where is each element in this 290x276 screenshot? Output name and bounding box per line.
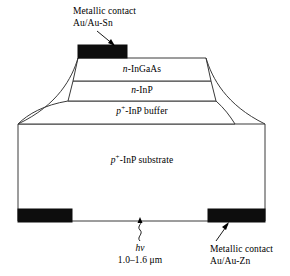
inp-layer-label: n-InP	[131, 85, 153, 97]
photon-wavelength-label: 1.0–1.6 μm	[118, 255, 162, 267]
top-contact-label-line2: Au/Au-Sn	[73, 18, 136, 30]
buffer-layer-label: p+-InP buffer	[116, 106, 167, 118]
bottom-contact-leader-arrow	[216, 222, 229, 241]
photodiode-cross-section-figure: Metallic contact Au/Au-Sn n-InGaAs n-InP…	[0, 0, 290, 276]
photon-energy-label: hν	[135, 243, 144, 255]
bottom-contact-label: Metallic contact Au/Au-Zn	[210, 244, 273, 267]
ingaas-material-text: -InGaAs	[128, 64, 161, 74]
top-contact-leader-arrow	[97, 31, 115, 46]
bottom-contact-label-line2: Au/Au-Zn	[210, 256, 273, 268]
top-contact-label-line1: Metallic contact	[73, 6, 136, 18]
bottom-contact-label-line1: Metallic contact	[210, 244, 273, 256]
ingaas-layer-label: n-InGaAs	[123, 64, 161, 76]
buffer-material-text: -InP buffer	[125, 106, 168, 116]
top-contact-label: Metallic contact Au/Au-Sn	[73, 6, 136, 29]
inp-material-text: -InP	[136, 85, 153, 95]
bottom-right-metallic-contact	[208, 209, 265, 222]
photon-nu-symbol: ν	[140, 243, 144, 253]
substrate-material-text: -InP substrate	[120, 155, 174, 165]
bottom-left-metallic-contact	[18, 209, 72, 222]
top-metallic-contact	[78, 45, 127, 58]
substrate-body	[18, 124, 265, 221]
diagram-canvas	[0, 0, 290, 276]
substrate-layer-label: p+-InP substrate	[111, 155, 173, 167]
